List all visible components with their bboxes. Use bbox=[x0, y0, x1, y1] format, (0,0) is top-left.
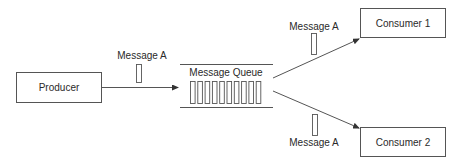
message-to-consumer2: Message A bbox=[289, 115, 339, 149]
queue-slots bbox=[191, 82, 261, 104]
queue-slot bbox=[212, 82, 217, 104]
message-queue-node: Message Queue bbox=[180, 65, 273, 108]
message-to-consumer1: Message A bbox=[289, 21, 339, 55]
queue-label: Message Queue bbox=[189, 67, 263, 78]
producer-label: Producer bbox=[39, 82, 80, 93]
consumer2-node: Consumer 2 bbox=[361, 128, 446, 157]
message-to-queue: Message A bbox=[117, 50, 167, 83]
message-to-consumer1-icon bbox=[312, 34, 317, 55]
message-to-consumer2-label: Message A bbox=[289, 137, 339, 148]
queue-slot bbox=[242, 82, 247, 104]
producer-node: Producer bbox=[17, 73, 102, 103]
message-to-queue-icon bbox=[137, 65, 142, 83]
queue-slot bbox=[205, 82, 210, 104]
consumer2-label: Consumer 2 bbox=[376, 137, 431, 148]
consumer1-label: Consumer 1 bbox=[376, 18, 431, 29]
message-to-queue-label: Message A bbox=[117, 50, 167, 61]
queue-slot bbox=[249, 82, 254, 104]
queue-slot bbox=[198, 82, 203, 104]
message-to-consumer2-icon bbox=[313, 115, 318, 136]
message-to-consumer1-label: Message A bbox=[289, 21, 339, 32]
queue-slot bbox=[191, 82, 196, 104]
queue-slot bbox=[234, 82, 239, 104]
queue-slot bbox=[227, 82, 232, 104]
queue-slot bbox=[256, 82, 261, 104]
queue-slot bbox=[220, 82, 225, 104]
consumer1-node: Consumer 1 bbox=[361, 9, 446, 38]
message-queue-diagram: Producer Message A Message Queue Message… bbox=[0, 0, 458, 165]
